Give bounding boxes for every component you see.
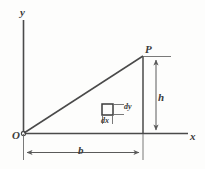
diagram-canvas xyxy=(0,0,205,169)
dx-label: dx xyxy=(101,117,109,125)
geometry-figure: y x O P h b dy dx xyxy=(0,0,205,169)
area-element-square xyxy=(102,104,113,115)
dy-label: dy xyxy=(124,103,132,111)
y-axis-label: y xyxy=(20,7,25,18)
base-label: b xyxy=(78,145,84,156)
origin-label: O xyxy=(12,130,20,141)
triangle-hypotenuse xyxy=(24,56,143,133)
x-axis-label: x xyxy=(190,131,196,142)
height-label: h xyxy=(158,92,164,103)
point-p-label: P xyxy=(145,44,152,55)
dy-leader-lines xyxy=(114,105,125,115)
